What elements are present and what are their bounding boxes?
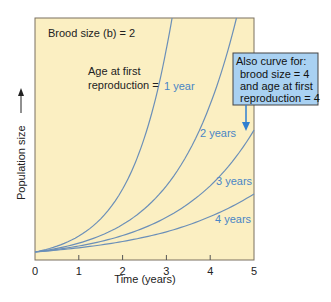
x-tick-label-0: 0	[32, 265, 38, 277]
x-axis-title: Time (years)	[114, 273, 175, 285]
x-tick-label-1: 1	[76, 265, 82, 277]
callout-line-4: reproduction = 4	[240, 92, 320, 104]
y-axis-title: Population size	[15, 125, 27, 200]
x-tick-label-5: 5	[251, 265, 257, 277]
age-label-line1: Age at first	[88, 65, 141, 77]
curve-label-1-year: 1 year	[164, 80, 195, 92]
callout-line-2: brood size = 4	[240, 68, 309, 80]
y-axis-title-group: Population size	[15, 88, 27, 200]
population-growth-chart: 012345 Brood size (b) = 2 Age at first r…	[0, 0, 331, 302]
y-axis-arrow-head	[18, 88, 24, 96]
callout-line-1: Also curve for:	[236, 55, 306, 67]
curve-label-4-years: 4 years	[215, 213, 252, 225]
brood-size-annotation: Brood size (b) = 2	[48, 27, 135, 39]
callout: Also curve for: brood size = 4 and age a…	[233, 53, 320, 131]
curve-label-3-years: 3 years	[216, 175, 253, 187]
curve-label-2-years: 2 years	[200, 127, 237, 139]
age-label-line2: reproduction =	[88, 79, 159, 91]
callout-line-3: and age at first	[240, 80, 313, 92]
x-tick-label-4: 4	[207, 265, 213, 277]
